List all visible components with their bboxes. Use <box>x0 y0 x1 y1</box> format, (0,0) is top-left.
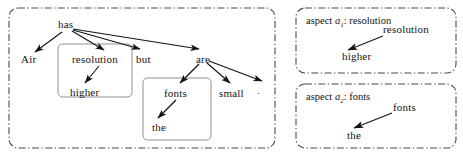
node-has[interactable]: has <box>58 18 73 30</box>
aspect-2-label: aspect a2: fonts <box>306 91 370 105</box>
edge-aspect2-fonts-the <box>354 113 392 128</box>
node-are[interactable]: are <box>196 53 210 65</box>
node-fonts[interactable]: fonts <box>164 87 187 99</box>
aspect-2-label-suffix: : fonts <box>344 91 371 102</box>
aspect-2-node-fonts[interactable]: fonts <box>393 101 416 113</box>
edge-has-are <box>73 29 199 49</box>
node-higher[interactable]: higher <box>70 86 99 98</box>
aspect-1-label-prefix: aspect <box>306 15 335 26</box>
node-period[interactable]: . <box>257 84 260 96</box>
aspect-2-label-prefix: aspect <box>306 91 335 102</box>
left-panel-border <box>9 8 275 148</box>
aspect-1-node-resolution[interactable]: resolution <box>383 23 429 35</box>
edge-fonts-the <box>158 100 176 118</box>
aspect-1-label: aspect a1: resolution <box>306 15 391 29</box>
aspect-1-node-higher[interactable]: higher <box>342 50 371 62</box>
edge-resolution-higher <box>85 66 99 83</box>
node-the[interactable]: the <box>152 121 166 133</box>
node-air[interactable]: Air <box>21 53 36 65</box>
edge-aspect1-resolution-higher <box>348 36 383 50</box>
node-small[interactable]: small <box>219 87 244 99</box>
edge-are-fonts <box>180 64 199 83</box>
aspect-2-node-the[interactable]: the <box>347 129 361 141</box>
node-but[interactable]: but <box>136 53 151 65</box>
node-resolution[interactable]: resolution <box>72 53 118 65</box>
edge-has-but <box>73 30 140 49</box>
figure-canvas: has Air resolution but higher are fonts … <box>0 0 463 156</box>
